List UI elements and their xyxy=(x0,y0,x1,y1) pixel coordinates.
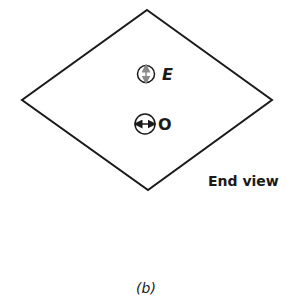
e-ray-label: E xyxy=(162,65,173,84)
end-view-diagram: E O End view (b) xyxy=(0,0,293,302)
figure-caption: (b) xyxy=(136,280,156,296)
o-ray-marker: O xyxy=(135,114,172,134)
o-ray-label: O xyxy=(158,115,172,134)
crystal-rhombus xyxy=(22,10,272,190)
e-ray-marker: E xyxy=(138,65,174,84)
view-label: End view xyxy=(208,173,279,189)
